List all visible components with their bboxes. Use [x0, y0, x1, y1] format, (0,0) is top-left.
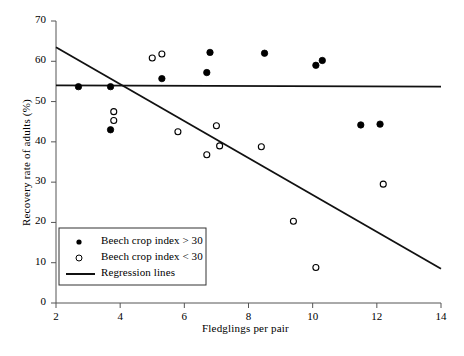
legend-item-label: Beech crop index > 30 [101, 234, 203, 246]
data-point-filled [358, 122, 364, 128]
data-point-open [217, 143, 223, 149]
data-point-filled [377, 121, 383, 127]
scatter-plot-figure [0, 0, 464, 356]
data-point-filled [207, 49, 213, 55]
y-tick-label: 40 [4, 134, 46, 146]
y-tick-label: 0 [4, 295, 46, 307]
y-axis-label: Recovery rate of adults (%) [20, 99, 32, 226]
y-tick-label: 70 [4, 13, 46, 25]
legend-item-label: Beech crop index < 30 [101, 250, 203, 262]
data-point-filled [107, 83, 113, 89]
y-tick-label: 20 [4, 214, 46, 226]
data-point-filled [159, 75, 165, 81]
data-point-open [380, 181, 386, 187]
x-tick-label: 6 [164, 310, 204, 322]
data-point-filled [319, 57, 325, 63]
data-point-open [258, 144, 264, 150]
data-point-open [149, 55, 155, 61]
data-point-filled [313, 62, 319, 68]
y-tick-label: 60 [4, 53, 46, 65]
data-point-open [290, 218, 296, 224]
y-tick-label: 50 [4, 94, 46, 106]
y-tick-label: 30 [4, 174, 46, 186]
x-tick-label: 14 [421, 310, 461, 322]
data-point-open [111, 118, 117, 124]
x-tick-label: 10 [293, 310, 333, 322]
data-point-open [111, 109, 117, 115]
data-point-open [313, 265, 319, 271]
data-point-open [159, 51, 165, 57]
legend-marker-filled-circle [76, 239, 81, 244]
x-tick-label: 2 [36, 310, 76, 322]
data-point-open [204, 152, 210, 158]
legend-item-label: Regression lines [101, 266, 175, 278]
x-axis-label: Fledglings per pair [202, 322, 289, 334]
data-point-filled [107, 127, 113, 133]
data-point-open [175, 129, 181, 135]
legend-marker-open-circle [76, 255, 82, 261]
x-tick-label: 4 [100, 310, 140, 322]
x-tick-label: 8 [229, 310, 269, 322]
x-tick-label: 12 [357, 310, 397, 322]
data-point-filled [75, 83, 81, 89]
data-point-filled [204, 69, 210, 75]
data-point-filled [261, 50, 267, 56]
y-tick-label: 10 [4, 255, 46, 267]
data-point-open [213, 123, 219, 129]
